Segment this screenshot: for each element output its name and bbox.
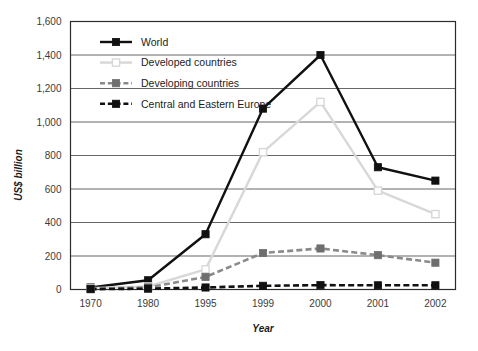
x-tick-label: 1980 bbox=[137, 298, 160, 309]
data-point-marker bbox=[374, 187, 381, 194]
series-line-1 bbox=[91, 102, 436, 288]
data-point-marker bbox=[317, 51, 324, 58]
data-point-marker bbox=[87, 286, 94, 293]
data-point-marker bbox=[317, 245, 324, 252]
y-tick-label: 600 bbox=[45, 184, 62, 195]
data-point-marker bbox=[317, 282, 324, 289]
data-point-marker bbox=[202, 284, 209, 291]
legend-label-0: World bbox=[141, 36, 168, 48]
data-point-marker bbox=[317, 98, 324, 105]
x-tick-label: 2001 bbox=[367, 298, 390, 309]
x-tick-label: 1999 bbox=[252, 298, 275, 309]
data-point-marker bbox=[432, 211, 439, 218]
y-tick-label: 400 bbox=[45, 217, 62, 228]
legend-marker-2 bbox=[112, 80, 119, 87]
y-tick-label: 0 bbox=[56, 284, 62, 295]
chart-container: 02004006008001,0001,2001,4001,600 197019… bbox=[0, 0, 478, 351]
data-point-marker bbox=[259, 282, 266, 289]
data-point-marker bbox=[432, 177, 439, 184]
data-point-marker bbox=[144, 285, 151, 292]
data-point-marker bbox=[259, 249, 266, 256]
y-axis-title: US$ billion bbox=[13, 149, 24, 201]
data-point-marker bbox=[432, 282, 439, 289]
data-point-marker bbox=[202, 273, 209, 280]
data-point-marker bbox=[374, 164, 381, 171]
x-tick-label: 2000 bbox=[309, 298, 332, 309]
x-axis-tick-labels: 1970198019951999200020012002 bbox=[79, 298, 446, 309]
line-chart: 02004006008001,0001,2001,4001,600 197019… bbox=[0, 0, 478, 351]
data-point-marker bbox=[374, 282, 381, 289]
series-markers-group bbox=[87, 51, 439, 292]
legend-label-3: Central and Eastern Europe bbox=[141, 98, 271, 110]
data-point-marker bbox=[202, 231, 209, 238]
legend-marker-0 bbox=[112, 38, 119, 45]
legend-label-1: Developed countries bbox=[141, 56, 237, 68]
y-tick-label: 800 bbox=[45, 150, 62, 161]
legend: WorldDeveloped countriesDeveloping count… bbox=[100, 36, 271, 110]
data-point-marker bbox=[432, 259, 439, 266]
y-tick-label: 1,600 bbox=[36, 16, 61, 27]
legend-marker-3 bbox=[112, 100, 119, 107]
y-tick-label: 1,200 bbox=[36, 83, 61, 94]
x-tick-label: 1995 bbox=[194, 298, 217, 309]
legend-marker-1 bbox=[112, 59, 119, 66]
data-point-marker bbox=[374, 252, 381, 259]
legend-label-2: Developing countries bbox=[141, 77, 239, 89]
y-tick-label: 1,400 bbox=[36, 50, 61, 61]
x-axis-title: Year bbox=[252, 323, 274, 334]
y-axis-tick-labels: 02004006008001,0001,2001,4001,600 bbox=[36, 16, 61, 295]
x-tick-label: 1970 bbox=[79, 298, 102, 309]
data-point-marker bbox=[259, 149, 266, 156]
y-tick-label: 1,000 bbox=[36, 117, 61, 128]
data-point-marker bbox=[202, 266, 209, 273]
y-tick-label: 200 bbox=[45, 251, 62, 262]
x-tick-label: 2002 bbox=[424, 298, 447, 309]
